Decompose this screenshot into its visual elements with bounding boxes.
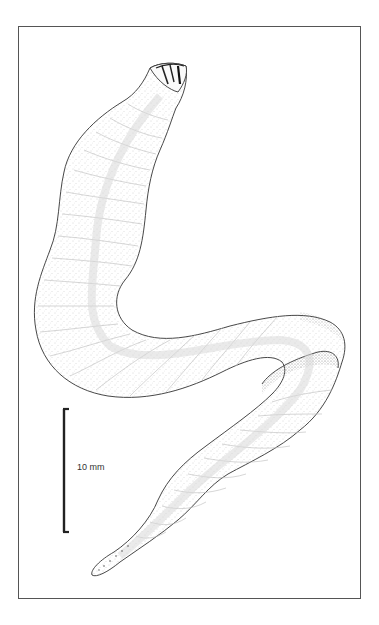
larva-body — [34, 63, 345, 576]
scale-bar — [63, 409, 69, 532]
scale-bar-label: 10 mm — [77, 462, 105, 472]
specimen-illustration — [0, 0, 379, 625]
